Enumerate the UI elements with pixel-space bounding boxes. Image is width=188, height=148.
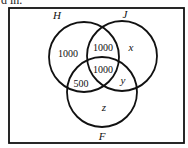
region-j-only: x — [128, 41, 134, 53]
region-h-only: 1000 — [58, 48, 78, 59]
set-j-label: J — [123, 8, 129, 20]
region-h-j-f: 1000 — [93, 64, 113, 75]
region-h-and-j-only: 1000 — [93, 42, 113, 53]
region-f-only: z — [101, 101, 107, 113]
set-f-label: F — [98, 130, 106, 142]
set-h-label: H — [52, 9, 62, 21]
universe-box — [9, 8, 184, 143]
region-j-and-f-only: y — [120, 74, 126, 86]
region-h-and-f-only: 500 — [74, 78, 89, 89]
venn-diagram: H J F 1000 1000 1000 x 500 y z — [0, 0, 188, 148]
